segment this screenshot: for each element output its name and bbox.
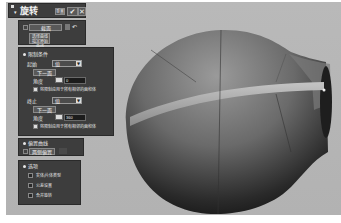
option-checkbox-3[interactable] xyxy=(28,193,33,198)
end-mode-value: 值 xyxy=(55,98,60,104)
settings-panel: 选项 实体/片体类型 公差设置 合并旋转 xyxy=(18,160,81,205)
check-icon: ✔ xyxy=(70,8,76,16)
select-curve-button[interactable]: 截面 xyxy=(29,24,62,31)
settings-header: 选项 xyxy=(28,163,38,169)
option-checkbox-2[interactable] xyxy=(28,183,33,188)
start-apply-label: 将限制应用于所有相邻的面和体 xyxy=(40,87,96,93)
start-mode-dropdown[interactable]: 值 ▼ xyxy=(52,60,82,67)
limits-panel: 限制条件 起始 值 ▼ 下一面 角度 将限制应用于所有相邻的面和体 终止 值 ▼… xyxy=(18,47,114,136)
end-apply-label: 将限制应用于所有相邻的面和体 xyxy=(40,124,96,130)
offset-extra-icon[interactable] xyxy=(59,148,67,154)
start-mode-value: 值 xyxy=(55,61,60,67)
end-angle-label: 角度 xyxy=(33,115,43,121)
end-angle-input[interactable] xyxy=(64,114,86,121)
option-label-3: 合并旋转 xyxy=(36,193,52,199)
section-panel: 截面 ↶ 选择曲线 指定原始曲线 xyxy=(18,20,86,45)
dialog-title-bar: ▾ 旋转 重置 ✔ ✕ xyxy=(8,3,86,18)
end-angle-unit xyxy=(55,114,63,120)
start-next-face-button[interactable]: 下一面 xyxy=(33,69,56,76)
limits-expand-icon[interactable] xyxy=(23,53,26,56)
offset-curve-panel: 偏置曲线 两侧偏置 xyxy=(18,138,84,156)
limits-header: 限制条件 xyxy=(28,51,48,57)
start-apply-checkbox[interactable] xyxy=(33,87,38,92)
curve-rule-icon[interactable]: ↶ xyxy=(72,24,80,30)
offset-expand-icon[interactable] xyxy=(23,142,26,145)
specify-curve-button[interactable]: 选择曲线 指定原始曲线 xyxy=(29,33,50,44)
chevron-down-icon: ▼ xyxy=(76,61,81,66)
start-angle-unit xyxy=(55,77,63,83)
sketch-icon[interactable] xyxy=(65,24,70,30)
option-label-1: 实体/片体类型 xyxy=(36,173,61,179)
offset-button[interactable]: 两侧偏置 xyxy=(29,148,55,155)
section-check[interactable] xyxy=(23,25,28,30)
end-label: 终止 xyxy=(27,98,37,104)
start-angle-label: 角度 xyxy=(33,78,43,84)
start-angle-input[interactable] xyxy=(64,77,86,84)
option-label-2: 公差设置 xyxy=(36,183,52,189)
option-checkbox-1[interactable] xyxy=(28,173,33,178)
collapse-icon[interactable]: ▾ xyxy=(14,9,17,15)
start-label: 起始 xyxy=(27,61,37,67)
offset-header: 偏置曲线 xyxy=(28,140,48,146)
ok-button[interactable]: ✔ xyxy=(67,7,78,16)
end-next-face-button[interactable]: 下一面 xyxy=(33,106,56,113)
settings-expand-icon[interactable] xyxy=(23,165,26,168)
end-mode-dropdown[interactable]: 值 ▼ xyxy=(52,97,82,104)
dialog-title: 旋转 xyxy=(20,6,38,16)
reset-button[interactable]: 重置 xyxy=(55,8,65,15)
chevron-down-icon: ▼ xyxy=(76,98,81,103)
close-button[interactable]: ✕ xyxy=(78,7,86,16)
close-icon: ✕ xyxy=(79,8,85,16)
end-apply-checkbox[interactable] xyxy=(33,124,38,129)
offset-check[interactable] xyxy=(23,149,28,154)
dialog-icon xyxy=(11,5,14,8)
